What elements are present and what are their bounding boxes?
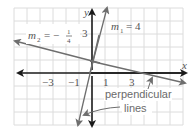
svg-text:1: 1	[67, 28, 71, 36]
svg-text:4: 4	[67, 37, 71, 45]
tick-neg1: −1	[68, 76, 80, 88]
svg-text:= 4: = 4	[126, 20, 141, 32]
coordinate-plane: y x −3 −1 1 3 3 m 1 = 4 m 2 = − 1 4 perp…	[0, 0, 196, 130]
svg-text:1: 1	[120, 27, 124, 35]
tick-1: 1	[103, 76, 109, 88]
m2-label: m 2 = − 1 4	[26, 24, 80, 45]
perpendicular-annotation: perpendicular lines	[84, 78, 172, 115]
svg-text:2: 2	[37, 36, 41, 44]
svg-text:m: m	[28, 29, 36, 41]
tick-neg3: −3	[42, 76, 54, 88]
svg-text:m: m	[111, 20, 119, 32]
m1-label: m 1 = 4	[111, 20, 141, 35]
x-axis-label: x	[181, 59, 187, 71]
svg-text:perpendicular: perpendicular	[105, 88, 172, 100]
ytick-3: 3	[82, 27, 88, 39]
y-axis-label: y	[83, 6, 89, 18]
tick-3: 3	[129, 76, 135, 88]
svg-text:lines: lines	[124, 102, 147, 114]
svg-text:= −: = −	[44, 29, 59, 41]
